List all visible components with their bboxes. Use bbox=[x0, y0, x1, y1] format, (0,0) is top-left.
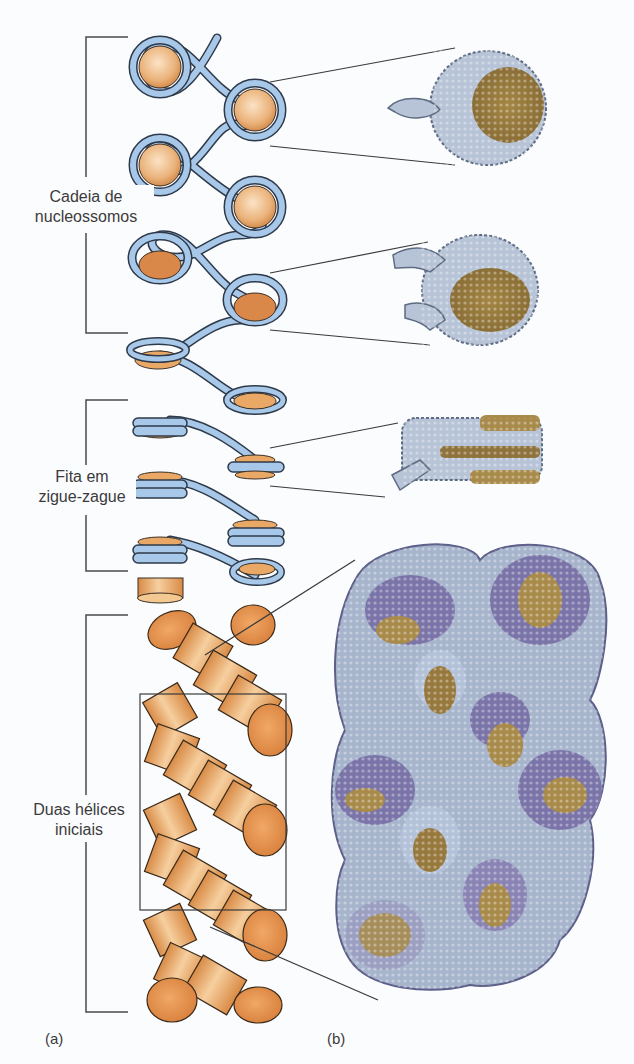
label-two-start-helices: Duas hélices iniciais bbox=[20, 798, 138, 842]
nucleosome-chain-illustration bbox=[132, 38, 283, 345]
fiber-structure bbox=[332, 544, 607, 989]
two-start-helix-illustration bbox=[140, 603, 292, 1023]
label-line: Cadeia de bbox=[18, 187, 154, 207]
nucleosome-structure-middle bbox=[393, 235, 540, 345]
label-line: zigue-zague bbox=[28, 487, 136, 507]
label-zigzag-ribbon: Fita em zigue-zague bbox=[28, 465, 136, 509]
label-line: Fita em bbox=[28, 467, 136, 487]
chromatin-diagram bbox=[0, 0, 634, 1064]
panel-label-a: (a) bbox=[45, 1030, 63, 1047]
label-line: iniciais bbox=[20, 820, 138, 840]
panel-label-b: (b) bbox=[327, 1030, 345, 1047]
nucleosome-structure-side bbox=[392, 415, 542, 490]
zigzag-ribbon-illustration bbox=[130, 341, 284, 603]
label-line: Duas hélices bbox=[20, 800, 138, 820]
nucleosome-structure-top bbox=[388, 50, 550, 165]
label-line: nucleossomos bbox=[18, 207, 154, 227]
label-nucleosome-chain: Cadeia de nucleossomos bbox=[18, 185, 154, 229]
